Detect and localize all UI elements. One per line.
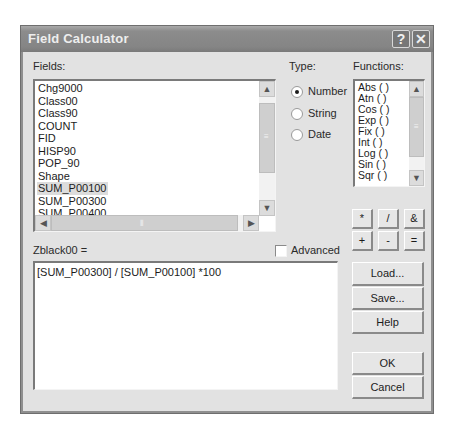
close-icon[interactable]: ✕ xyxy=(412,30,430,48)
scroll-thumb-horizontal[interactable]: ⦀ xyxy=(51,215,238,231)
grip-icon: ⦀ xyxy=(140,219,144,229)
scroll-up-icon[interactable]: ▲ xyxy=(259,81,275,97)
field-item[interactable]: COUNT xyxy=(37,120,108,133)
scroll-thumb[interactable]: ≡ xyxy=(259,103,275,173)
type-date-label[interactable]: Date xyxy=(308,128,331,140)
field-item[interactable]: SUM_P00300 xyxy=(37,195,108,208)
window-title: Field Calculator xyxy=(28,31,129,46)
functions-listbox[interactable]: Abs ( ) Atn ( ) Cos ( ) Exp ( ) Fix ( ) … xyxy=(353,79,425,187)
ok-button[interactable]: OK xyxy=(352,352,424,375)
fields-label: Fields: xyxy=(33,60,65,72)
scroll-up-icon[interactable]: ▲ xyxy=(409,81,424,97)
field-item[interactable]: Class90 xyxy=(37,107,108,120)
advanced-checkbox[interactable] xyxy=(275,245,287,257)
functions-label: Functions: xyxy=(353,60,404,72)
save-button[interactable]: Save... xyxy=(352,287,424,310)
scroll-down-icon[interactable]: ▼ xyxy=(259,200,275,216)
field-item[interactable]: FID xyxy=(37,132,108,145)
scroll-right-icon[interactable]: ▶ xyxy=(243,215,259,231)
fields-vertical-scrollbar[interactable]: ▲ ≡ ▼ xyxy=(259,81,275,216)
type-date-radio[interactable] xyxy=(291,129,303,141)
expression-label: Zblack00 = xyxy=(33,244,87,256)
field-item-selected[interactable]: SUM_P00100 xyxy=(37,182,108,195)
grip-icon: ≡ xyxy=(414,122,419,131)
equals-button[interactable]: = xyxy=(404,231,425,251)
fields-list: Chg9000 Class00 Class90 COUNT FID HISP90… xyxy=(37,82,108,220)
expression-textbox[interactable]: [SUM_P00300] / [SUM_P00100] *100 xyxy=(33,261,338,390)
help-title-button[interactable]: ? xyxy=(392,30,410,48)
field-calculator-dialog: Field Calculator ? ✕ Fields: Chg9000 Cla… xyxy=(20,25,434,414)
function-item[interactable]: Sqr ( ) xyxy=(357,170,391,181)
type-label: Type: xyxy=(289,60,316,72)
scroll-left-icon[interactable]: ◀ xyxy=(35,215,51,231)
type-string-radio[interactable] xyxy=(291,108,303,120)
functions-vertical-scrollbar[interactable]: ▲ ≡ ▼ xyxy=(409,81,424,186)
type-string-label[interactable]: String xyxy=(308,107,337,119)
load-button[interactable]: Load... xyxy=(352,262,424,286)
type-number-label[interactable]: Number xyxy=(308,85,347,97)
fields-horizontal-scrollbar[interactable]: ◀ ⦀ ▶ xyxy=(35,215,259,231)
grip-icon: ≡ xyxy=(264,132,269,141)
multiply-button[interactable]: * xyxy=(352,209,373,229)
cancel-button[interactable]: Cancel xyxy=(352,376,424,399)
subtract-button[interactable]: - xyxy=(378,231,399,251)
field-item[interactable]: POP_90 xyxy=(37,157,108,170)
fields-listbox[interactable]: Chg9000 Class00 Class90 COUNT FID HISP90… xyxy=(33,79,276,232)
field-item[interactable]: Shape xyxy=(37,170,108,183)
advanced-label[interactable]: Advanced xyxy=(291,244,340,256)
title-bar[interactable]: Field Calculator ? ✕ xyxy=(21,26,433,52)
type-number-radio[interactable] xyxy=(291,86,303,98)
functions-list: Abs ( ) Atn ( ) Cos ( ) Exp ( ) Fix ( ) … xyxy=(357,82,391,181)
field-item[interactable]: Chg9000 xyxy=(37,82,108,95)
scroll-down-icon[interactable]: ▼ xyxy=(409,170,424,186)
field-item[interactable]: Class00 xyxy=(37,95,108,108)
concatenate-button[interactable]: & xyxy=(404,209,425,229)
divide-button[interactable]: / xyxy=(378,209,399,229)
add-button[interactable]: + xyxy=(352,231,373,251)
scroll-thumb[interactable]: ≡ xyxy=(409,97,424,157)
field-item[interactable]: HISP90 xyxy=(37,145,108,158)
help-button[interactable]: Help xyxy=(352,311,424,334)
